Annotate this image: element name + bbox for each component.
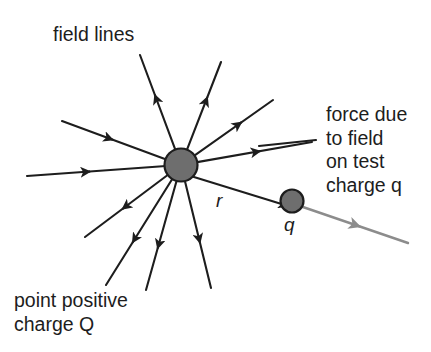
field-line-arrowhead (133, 242, 134, 243)
force-label-line-2: to field (326, 127, 383, 149)
force-label-q-symbol: q (391, 174, 402, 196)
field-lines-label: field lines (53, 23, 135, 45)
force-label-line-4: charge q (326, 174, 402, 196)
diagram-canvas: field lines force due to field on test c… (0, 0, 431, 352)
force-label-charge-word: charge (326, 174, 391, 196)
test-charge-q-circle (281, 190, 304, 213)
point-charge-label-line-1: point positive (14, 289, 128, 311)
point-charge-label-line-2: charge Q (14, 313, 94, 335)
field-line-arrowhead (241, 122, 242, 123)
point-charge-Q-circle (165, 149, 198, 182)
force-label-line-3: on test (326, 150, 385, 172)
point-charge-label-charge-word: charge (14, 313, 79, 335)
electric-field-diagram: field lines force due to field on test c… (0, 0, 431, 352)
field-line-arrowhead (122, 208, 123, 209)
distance-r-label: r (216, 190, 223, 211)
point-charge-label-Q-symbol: Q (79, 313, 94, 335)
force-label-line-1: force due (326, 103, 407, 125)
test-charge-q-label: q (284, 214, 295, 235)
